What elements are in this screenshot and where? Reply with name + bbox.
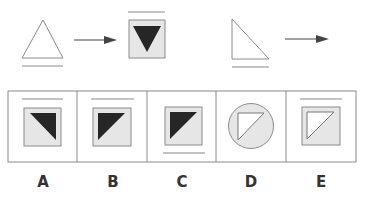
option-b[interactable] <box>91 99 134 146</box>
result-square <box>128 12 165 58</box>
option-label-b: B <box>107 173 118 191</box>
option-label-a: A <box>37 173 49 191</box>
arrow-right-icon <box>285 35 329 43</box>
stem-triangle <box>22 20 63 66</box>
right-triangle-icon <box>232 19 269 59</box>
option-e[interactable] <box>300 99 342 145</box>
isosceles-triangle-icon <box>22 20 63 58</box>
option-label-c: C <box>176 173 187 191</box>
option-c[interactable] <box>163 107 205 153</box>
stem-right-triangle <box>232 19 269 67</box>
puzzle-diagram: A B C D E <box>0 0 368 197</box>
arrow-right-icon <box>74 36 117 44</box>
option-a[interactable] <box>22 99 63 146</box>
option-d[interactable] <box>229 104 274 149</box>
option-label-d: D <box>245 173 257 191</box>
option-label-e: E <box>316 173 326 191</box>
